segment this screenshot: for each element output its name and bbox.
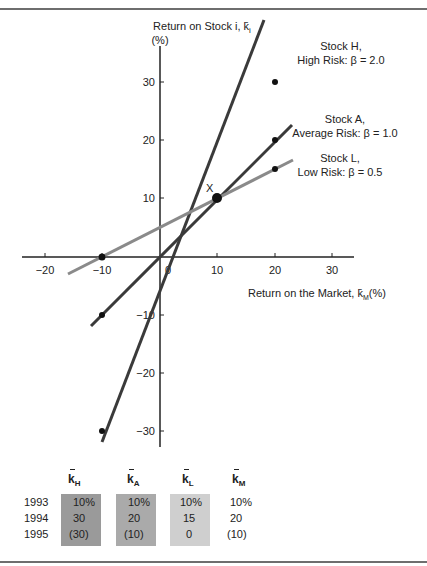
header-kh: kH	[68, 472, 80, 488]
y-tick-label: 20	[143, 134, 155, 146]
cell: (10)	[124, 528, 144, 540]
stock-h-label: High Risk: β = 2.0	[297, 54, 384, 66]
stock-l-label: Stock L,	[320, 152, 360, 164]
cell: 10%	[73, 496, 95, 508]
y-tick-label: 30	[143, 76, 155, 88]
column-kl: 10% 15 0	[170, 494, 210, 546]
y-tick-label: 10	[143, 192, 155, 204]
bottom-rule	[0, 561, 427, 563]
cell: (30)	[69, 528, 89, 540]
x-tick-label: −10	[93, 264, 112, 276]
column-km: 10% 20 (10)	[225, 494, 265, 546]
y-axis-title: Return on Stock i, k̄i	[153, 20, 251, 35]
sml-chart: −20 −10 0 10 20 30 30 20 10 −10 −20 −30 …	[0, 0, 427, 460]
cell: 30	[73, 512, 85, 524]
y-tick-label: −20	[136, 367, 155, 379]
cell: 20	[230, 512, 242, 524]
line-stock-h	[102, 20, 264, 442]
x-tick-label: 10	[211, 264, 223, 276]
cell: 10%	[230, 496, 252, 508]
column-ka: 10% 20 (10)	[116, 494, 156, 546]
x-tick-label: 20	[269, 264, 281, 276]
header-km: kM	[232, 472, 245, 488]
x-axis-title: Return on the Market, k̄M(%)	[248, 287, 386, 301]
cell: 10%	[128, 496, 150, 508]
stock-a-label: Average Risk: β = 1.0	[292, 127, 397, 139]
stock-a-label: Stock A,	[325, 113, 365, 125]
column-kh: 10% 30 (30)	[61, 494, 101, 546]
cell: 10%	[180, 496, 202, 508]
header-kl: kL	[182, 472, 194, 488]
y-tick-label: −30	[136, 425, 155, 437]
returns-table: kH kA kL kM 1993 1994 1995 10% 30 (30) 1…	[0, 460, 427, 540]
year-label: 1993	[24, 496, 48, 508]
point-x-label: X	[206, 182, 214, 194]
stock-l-label: Low Risk: β = 0.5	[298, 166, 383, 178]
header-ka: kA	[127, 472, 139, 488]
cell: (10)	[227, 528, 247, 540]
cell: 20	[128, 512, 140, 524]
stock-h-label: Stock H,	[320, 40, 362, 52]
x-tick-label: −20	[36, 264, 55, 276]
x-tick-label: 30	[326, 264, 338, 276]
y-axis-unit: (%)	[151, 34, 168, 46]
year-label: 1995	[24, 528, 48, 540]
cell: 15	[183, 512, 195, 524]
year-label: 1994	[24, 512, 48, 524]
cell: 0	[186, 528, 192, 540]
